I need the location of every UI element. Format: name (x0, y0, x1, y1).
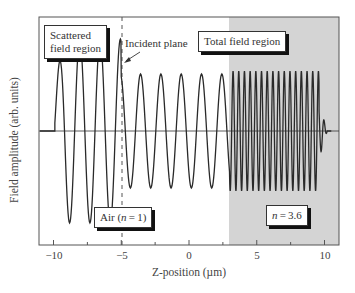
silicon-region-label: n = 3.6 (266, 205, 308, 226)
y-axis-title: Field amplitude (arb. units) (8, 77, 20, 203)
x-tick-label: 5 (254, 249, 260, 261)
incident-plane-label: Incident plane (125, 37, 188, 49)
n36-suffix: = 3.6 (278, 209, 302, 221)
x-tick-label: 10 (320, 249, 331, 261)
x-tick-label: −10 (45, 249, 62, 261)
x-tick-label: 0 (186, 249, 192, 261)
air-suffix: = 1) (127, 211, 147, 223)
scattered-line1: Scattered (50, 29, 101, 42)
total-field-text: Total field region (204, 35, 280, 47)
x-tick-label: −5 (116, 249, 128, 261)
scattered-line2: field region (50, 42, 101, 55)
arrow-head-icon (124, 57, 131, 63)
air-prefix: Air ( (100, 211, 121, 223)
x-axis-title: Z-position (µm) (152, 266, 226, 278)
scattered-field-region-label: Scattered field region (44, 25, 107, 59)
air-region-label: Air (n = 1) (94, 207, 152, 228)
total-field-region-label: Total field region (198, 31, 286, 52)
